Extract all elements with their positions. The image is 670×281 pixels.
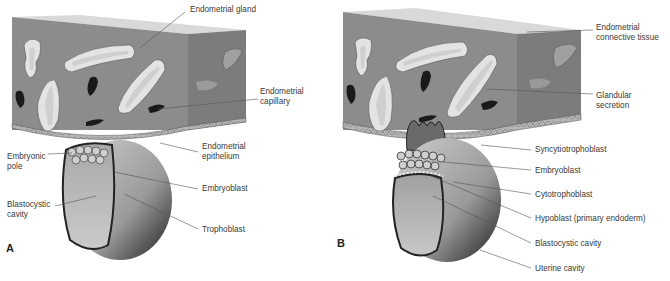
- tissue-side-face: [188, 30, 246, 130]
- label-cytotrophoblast: Cytotrophoblast: [535, 190, 592, 200]
- label-endometrial-capillary: Endometrial capillary: [260, 87, 304, 107]
- label-hypoblast: Hypoblast (primary endoderm): [535, 214, 646, 224]
- label-embryonic-pole: Embryonic pole: [7, 152, 46, 172]
- label-embryoblast: Embryoblast: [202, 184, 248, 194]
- label-uterine-cavity: Uterine cavity: [535, 264, 585, 274]
- panel-b: Endometrial connective tissue Glandular …: [335, 0, 670, 281]
- label-blastocystic-cavity: Blastocystic cavity: [535, 239, 601, 249]
- label-syncytiotrophoblast: Syncytiotrophoblast: [535, 145, 606, 155]
- illustration-implantation-early: [0, 0, 335, 281]
- label-endometrial-gland: Endometrial gland: [190, 5, 256, 15]
- label-embryoblast: Embryoblast: [535, 166, 581, 176]
- label-blastocystic-cavity: Blastocystic cavity: [7, 200, 50, 220]
- label-glandular-secretion: Glandular secretion: [596, 91, 632, 111]
- panel-letter-a: A: [6, 242, 14, 254]
- panel-letter-b: B: [337, 237, 345, 249]
- panel-a: Endometrial gland Endometrial capillary …: [0, 0, 335, 281]
- label-trophoblast: Trophoblast: [202, 225, 245, 235]
- blastocystic-cavity-shape: [393, 174, 443, 256]
- label-endometrial-connective-tissue: Endometrial connective tissue: [596, 23, 659, 43]
- label-endometrial-epithelium: Endometrial epithelium: [202, 142, 246, 162]
